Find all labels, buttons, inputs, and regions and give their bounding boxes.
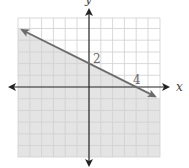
x-axis-label: x [176,80,183,94]
inequality-graph: 2 4 x y [0,0,189,168]
x-intercept-label: 4 [133,73,141,87]
y-intercept-label: 2 [93,52,101,66]
y-axis-label: y [84,0,92,6]
